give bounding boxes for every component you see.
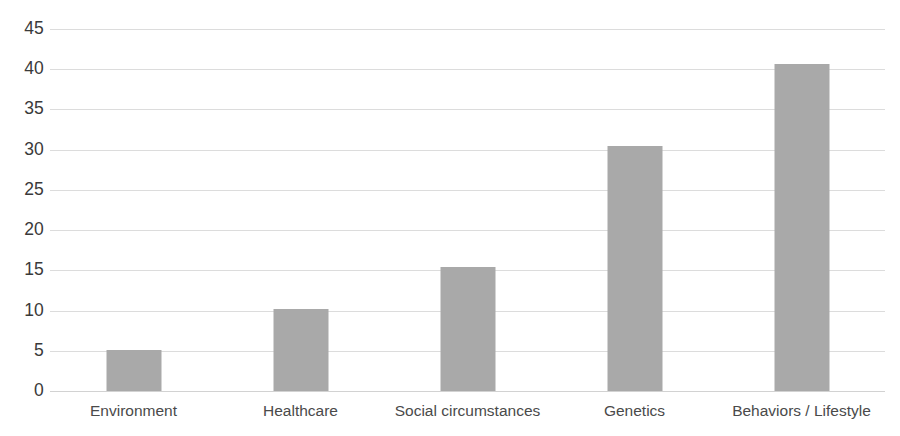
- x-axis-category-label: Environment: [50, 403, 217, 419]
- y-axis-tick-label: 15: [0, 262, 44, 280]
- bar[interactable]: [273, 309, 328, 391]
- bar[interactable]: [440, 267, 495, 391]
- x-axis: EnvironmentHealthcareSocial circumstance…: [50, 391, 885, 436]
- y-axis-tick-label: 45: [0, 20, 44, 38]
- x-axis-category-label: Healthcare: [217, 403, 384, 419]
- y-axis-tick-label: 5: [0, 342, 44, 360]
- plot-area: [50, 0, 885, 391]
- bar-slot: [384, 0, 551, 391]
- bar-series: [50, 0, 885, 391]
- y-axis-tick-label: 30: [0, 141, 44, 159]
- y-axis-tick-label: 25: [0, 181, 44, 199]
- bar[interactable]: [607, 146, 662, 391]
- y-axis-tick-label: 10: [0, 302, 44, 320]
- y-axis-tick-label: 20: [0, 221, 44, 239]
- bar-slot: [718, 0, 885, 391]
- bar[interactable]: [106, 350, 161, 391]
- bar-chart: 051015202530354045 EnvironmentHealthcare…: [0, 0, 900, 436]
- bar-slot: [50, 0, 217, 391]
- y-axis: 051015202530354045: [0, 0, 44, 436]
- y-axis-tick-label: 0: [0, 382, 44, 400]
- bar[interactable]: [774, 64, 829, 391]
- y-axis-tick-label: 40: [0, 60, 44, 78]
- x-axis-category-label: Social circumstances: [384, 403, 551, 419]
- bar-slot: [217, 0, 384, 391]
- x-axis-category-label: Behaviors / Lifestyle: [718, 403, 885, 419]
- bar-slot: [551, 0, 718, 391]
- y-axis-tick-label: 35: [0, 101, 44, 119]
- x-axis-category-label: Genetics: [551, 403, 718, 419]
